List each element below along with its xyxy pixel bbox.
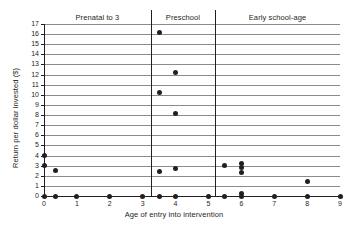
y-axis-tick-label: 5 bbox=[23, 141, 39, 149]
data-point bbox=[239, 194, 244, 199]
x-axis-tick-label: 9 bbox=[333, 200, 347, 208]
data-point bbox=[42, 194, 47, 199]
y-axis-tick-label: 9 bbox=[23, 101, 39, 109]
gridline bbox=[44, 44, 340, 45]
data-point bbox=[173, 194, 178, 199]
gridline bbox=[44, 85, 340, 86]
data-point bbox=[157, 30, 162, 35]
data-point bbox=[53, 194, 58, 199]
y-axis-tick-label: 0 bbox=[23, 192, 39, 200]
gridline bbox=[44, 54, 340, 55]
gridline bbox=[44, 125, 340, 126]
y-axis-tick-label: 14 bbox=[23, 50, 39, 58]
x-axis-tick-label: 1 bbox=[70, 200, 84, 208]
data-point bbox=[206, 194, 211, 199]
data-point bbox=[173, 111, 178, 116]
x-axis-tick-label: 3 bbox=[136, 200, 150, 208]
x-axis-tick-label: 0 bbox=[37, 200, 51, 208]
gridline bbox=[44, 156, 340, 157]
data-point bbox=[272, 194, 277, 199]
data-point bbox=[42, 163, 47, 168]
x-axis-tick-label: 8 bbox=[300, 200, 314, 208]
category-divider bbox=[151, 10, 152, 196]
x-axis-line bbox=[44, 196, 340, 197]
y-axis-tick-label: 1 bbox=[23, 182, 39, 190]
data-point bbox=[157, 169, 162, 174]
gridline bbox=[44, 24, 340, 25]
y-axis-tick-label: 12 bbox=[23, 71, 39, 79]
band-label-2: Early school-age bbox=[218, 13, 338, 22]
data-point bbox=[239, 170, 244, 175]
y-axis-title: Return per dollar invested ($) bbox=[11, 68, 20, 168]
data-point bbox=[157, 90, 162, 95]
data-point bbox=[305, 179, 310, 184]
gridline bbox=[44, 166, 340, 167]
data-point bbox=[173, 166, 178, 171]
x-axis-tick-label: 7 bbox=[267, 200, 281, 208]
data-point bbox=[222, 163, 227, 168]
y-axis-tick-label: 10 bbox=[23, 91, 39, 99]
data-point bbox=[140, 194, 145, 199]
data-point bbox=[222, 194, 227, 199]
y-axis-tick-label: 13 bbox=[23, 60, 39, 68]
gridline bbox=[44, 115, 340, 116]
data-point bbox=[157, 194, 162, 199]
gridline bbox=[44, 186, 340, 187]
y-axis-tick-label: 7 bbox=[23, 121, 39, 129]
category-divider bbox=[215, 10, 216, 196]
x-axis-tick-label: 6 bbox=[234, 200, 248, 208]
x-axis-title: Age of entry into intervention bbox=[0, 210, 348, 219]
data-point bbox=[53, 168, 58, 173]
x-axis-tick-label: 5 bbox=[201, 200, 215, 208]
data-point bbox=[107, 194, 112, 199]
y-axis-tick-label: 4 bbox=[23, 152, 39, 160]
gridline bbox=[44, 176, 340, 177]
gridline bbox=[44, 34, 340, 35]
gridline bbox=[44, 64, 340, 65]
y-axis-tick-label: 16 bbox=[23, 30, 39, 38]
y-axis-tick-label: 15 bbox=[23, 40, 39, 48]
gridline bbox=[44, 105, 340, 106]
y-axis-tick-label: 6 bbox=[23, 131, 39, 139]
y-axis-tick-label: 11 bbox=[23, 81, 39, 89]
gridline bbox=[44, 95, 340, 96]
gridline bbox=[44, 135, 340, 136]
data-point bbox=[338, 194, 343, 199]
data-point bbox=[42, 153, 47, 158]
x-axis-tick-label: 4 bbox=[169, 200, 183, 208]
y-axis-line bbox=[44, 24, 45, 197]
gridline bbox=[44, 75, 340, 76]
gridline bbox=[44, 145, 340, 146]
data-point bbox=[74, 194, 79, 199]
scatter-chart: 012345678910111213141516170123456789Pren… bbox=[0, 0, 348, 232]
y-axis-tick-label: 8 bbox=[23, 111, 39, 119]
y-axis-tick-label: 2 bbox=[23, 172, 39, 180]
data-point bbox=[305, 194, 310, 199]
y-axis-tick-label: 3 bbox=[23, 162, 39, 170]
x-axis-tick-label: 2 bbox=[103, 200, 117, 208]
